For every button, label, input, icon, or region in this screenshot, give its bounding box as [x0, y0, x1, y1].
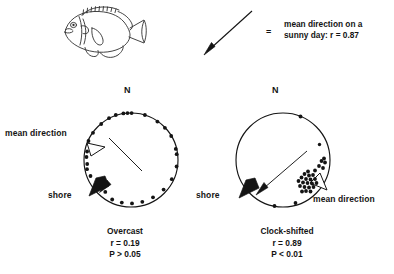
circular-diagram-overcast [74, 104, 190, 220]
orientation-figure: = mean direction on a sunny day: r = 0.8… [0, 0, 394, 274]
shore-label-overcast: shore [48, 190, 72, 200]
legend-text-line1: mean direction on a [284, 19, 362, 31]
caption-overcast-r: r = 0.19 [65, 238, 185, 250]
caption-clock-shifted-p: P < 0.01 [222, 249, 352, 261]
caption-overcast-title: Overcast [65, 226, 185, 238]
circular-diagram-clock-shifted [226, 104, 342, 220]
caption-clock-shifted-r: r = 0.89 [222, 238, 352, 250]
legend-equals-sign: = [266, 27, 271, 37]
legend-arrow-icon [196, 8, 260, 60]
data-dots-clock-shifted [273, 115, 327, 208]
caption-overcast: Overcast r = 0.19 P > 0.05 [65, 226, 185, 261]
caption-overcast-p: P > 0.05 [65, 249, 185, 261]
shore-label-clock-shifted: shore [196, 190, 220, 200]
sunfish-illustration [52, 2, 152, 62]
mean-direction-label-overcast: mean direction [5, 128, 67, 138]
north-label-overcast: N [124, 85, 131, 95]
caption-clock-shifted: Clock-shifted r = 0.89 P < 0.01 [222, 226, 352, 261]
mean-direction-arrowhead-overcast [87, 143, 105, 156]
legend-text-line2: sunny day: r = 0.87 [284, 30, 359, 42]
north-label-clock-shifted: N [272, 85, 279, 95]
caption-clock-shifted-title: Clock-shifted [222, 226, 352, 238]
